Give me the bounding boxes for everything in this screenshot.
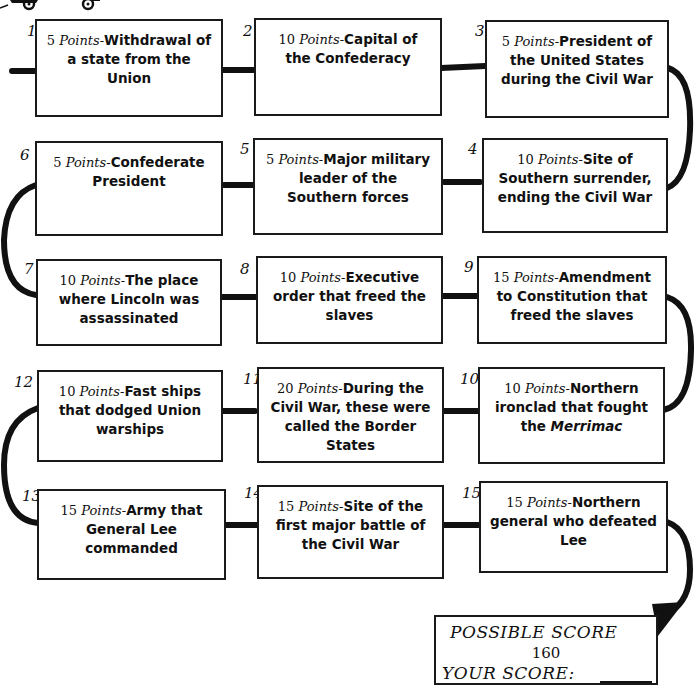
quiz-box-15[interactable]: 15 Points-Northern general who defeated … [479,481,668,573]
quiz-box-5[interactable]: 5 Points-Major military leader of the So… [253,138,443,235]
quiz-box-12[interactable]: 10 Points-Fast ships that dodged Union w… [37,370,223,462]
quiz-box-11[interactable]: 20 Points-During the Civil War, these we… [257,367,444,463]
step-number: 4 [468,140,478,158]
quiz-box-6[interactable]: 5 Points-Confederate President [35,141,223,236]
points-label: 15 Points- [493,270,559,285]
quiz-box-14[interactable]: 15 Points-Site of the first major battle… [257,485,444,579]
quiz-box-7[interactable]: 10 Points-The place where Lincoln was as… [36,259,222,346]
quiz-box-9[interactable]: 15 Points-Amendment to Constitution that… [477,256,667,344]
step-number: 12 [14,373,33,391]
step-number: 8 [240,260,250,278]
quiz-box-8[interactable]: 10 Points-Executive order that freed the… [256,256,443,344]
points-label: 10 Points- [59,384,125,399]
points-label: 10 Points- [60,273,126,288]
step-number: 5 [240,140,250,158]
points-label: 5 Points- [53,155,110,170]
quiz-box-13[interactable]: 15 Points-Army that General Lee commande… [37,489,226,580]
points-label: 10 Points- [504,381,570,396]
quiz-box-2[interactable]: 10 Points-Capital of the Confederacy [254,18,442,116]
step-number: 10 [460,370,479,388]
ship-name: Merrimac [551,418,623,434]
score-box: POSSIBLE SCORE 160 YOUR SCORE: [434,615,658,685]
quiz-box-1[interactable]: 5 Points-Withdrawal of a state from the … [35,19,223,117]
quiz-box-3[interactable]: 5 Points-President of the United States … [485,20,669,118]
points-label: 15 Points- [506,495,572,510]
points-label: 10 Points- [517,152,583,167]
step-number: 6 [20,146,30,164]
points-label: 10 Points- [280,270,346,285]
step-number: 9 [464,258,474,276]
step-number: 2 [243,22,253,40]
quiz-box-10[interactable]: 10 Points-Northern ironclad that fought … [478,367,665,464]
points-label: 15 Points- [278,499,344,514]
possible-score-label: POSSIBLE SCORE [450,621,617,643]
points-label: 20 Points- [277,381,343,396]
points-label: 15 Points- [61,503,127,518]
your-score-blank[interactable] [600,681,652,683]
points-label: 10 Points- [279,32,345,47]
your-score-label: YOUR SCORE: [442,662,575,684]
points-label: 5 Points- [47,33,104,48]
points-label: 5 Points- [502,34,559,49]
quiz-box-4[interactable]: 10 Points-Site of Southern surrender, en… [482,138,668,233]
step-number: 7 [24,260,34,278]
points-label: 5 Points- [266,152,323,167]
step-number: 3 [475,22,485,40]
possible-score-value: 160 [436,642,656,664]
